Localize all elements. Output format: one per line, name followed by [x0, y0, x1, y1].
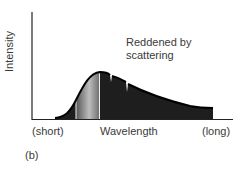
y-axis-label: Intensity: [3, 31, 15, 72]
x-axis-label: Wavelength: [100, 125, 158, 137]
annotation-line2: scattering: [126, 49, 174, 61]
x-tick-short: (short): [32, 125, 64, 137]
x-tick-long: (long): [202, 125, 230, 137]
spectrum-area: [50, 60, 220, 120]
panel-label: (b): [25, 149, 38, 161]
annotation-line1: Reddened by: [126, 36, 191, 48]
